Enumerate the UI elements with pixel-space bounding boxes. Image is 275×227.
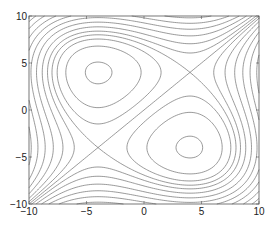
contour-line — [77, 55, 259, 204]
contour-line — [29, 16, 239, 188]
y-tick-label: −10 — [10, 199, 27, 210]
y-tick-labels: −10−50510 — [10, 11, 27, 210]
y-tick-label: −5 — [16, 152, 28, 163]
contour-chart: −10−50510 −10−50510 — [0, 0, 275, 227]
contour-line — [29, 16, 259, 204]
y-tick-label: 5 — [21, 58, 27, 69]
contour-line — [32, 18, 259, 204]
contour-line — [252, 198, 259, 204]
x-tick-labels: −10−50510 — [21, 206, 265, 217]
contour-lines — [29, 16, 259, 204]
contour-line — [29, 16, 45, 29]
y-tick-label: 0 — [21, 105, 27, 116]
contour-line — [29, 16, 211, 165]
contour-line — [49, 32, 259, 204]
x-tick-label: −5 — [81, 206, 93, 217]
y-tick-label: 10 — [16, 11, 28, 22]
x-tick-label: 5 — [199, 206, 205, 217]
x-tick-label: 10 — [253, 206, 265, 217]
contour-line — [29, 16, 36, 22]
contour-line — [243, 191, 259, 204]
x-tick-label: 0 — [141, 206, 147, 217]
contour-line — [29, 16, 256, 202]
